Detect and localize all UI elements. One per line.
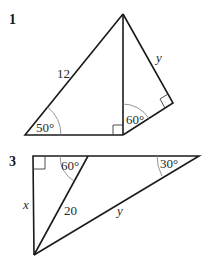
side-x-label: x: [22, 197, 29, 212]
diagram-number: 1: [9, 12, 16, 27]
segment-label: 20: [64, 203, 77, 218]
right-angle-marker: [113, 125, 123, 135]
diagram-3: 3 60° 30° x 20 y: [9, 154, 199, 255]
right-angle-marker: [33, 156, 45, 169]
side-y-label: y: [115, 203, 123, 218]
angle-label: 60°: [126, 112, 144, 127]
diagram-1: 1 12 50° 60° y: [9, 12, 173, 135]
side-y-label: y: [154, 50, 162, 65]
angle-label: 60°: [61, 158, 79, 173]
hypotenuse-label: 12: [57, 66, 70, 81]
triangle-left: [25, 14, 123, 135]
right-angle-marker: [160, 94, 168, 108]
diagram-number: 3: [9, 154, 16, 169]
geometry-diagrams: 1 12 50° 60° y 3 60° 30° x 20 y: [0, 0, 211, 267]
angle-label: 30°: [160, 156, 178, 171]
angle-label: 50°: [36, 120, 54, 135]
